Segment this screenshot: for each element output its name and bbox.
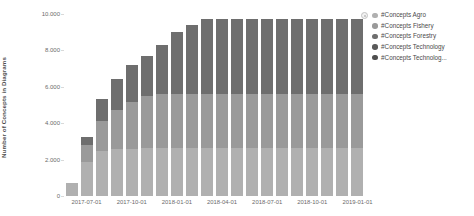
bar[interactable]: [246, 19, 258, 196]
x-axis-tick-labels: 2017-07-012017-10-012018-01-012018-04-01…: [64, 197, 365, 215]
bar-segment: [81, 145, 93, 162]
bar-segment: [231, 148, 243, 196]
bar-segment: [351, 148, 363, 196]
bar-segment: [306, 19, 318, 93]
bar[interactable]: [111, 79, 123, 196]
legend-item-label: #Concepts Technology: [381, 44, 445, 50]
y-axis-tick-label: 2.000: [24, 157, 60, 163]
y-axis-tick-label: 4.000: [24, 120, 60, 126]
x-axis-tick-label: 2018-07-01: [252, 199, 282, 205]
bar-segment: [186, 94, 198, 149]
bar-segment: [291, 94, 303, 149]
bar-segment: [111, 79, 123, 110]
bar-segment: [96, 151, 108, 196]
legend-marker-icon: [372, 44, 378, 50]
bar-segment: [336, 94, 348, 149]
y-axis-tick-label: 6.000: [24, 84, 60, 90]
bar-segment: [261, 19, 273, 93]
bar-segment: [246, 94, 258, 149]
legend-marker-icon: [372, 55, 378, 61]
bar-segment: [261, 94, 273, 149]
bar-segment: [96, 99, 108, 122]
bar-segment: [291, 19, 303, 93]
bar[interactable]: [261, 19, 273, 196]
bar[interactable]: [126, 65, 138, 196]
y-axis-tick-labels: 02.0004.0006.0008.00010.000: [18, 0, 60, 216]
y-axis-title: Number of Concepts in Diagrams: [0, 0, 20, 158]
bar-segment: [126, 65, 138, 102]
bar[interactable]: [336, 19, 348, 196]
bar-segment: [321, 148, 333, 196]
bar-segment: [126, 149, 138, 196]
bar-segment: [306, 148, 318, 196]
y-axis-tick-label: 8.000: [24, 47, 60, 53]
legend-marker-icon: [372, 23, 378, 29]
bar-segment: [171, 94, 183, 149]
bar-segment: [231, 94, 243, 149]
bar-segment: [156, 148, 168, 196]
bar[interactable]: [96, 99, 108, 196]
bar-segment: [156, 45, 168, 94]
y-axis-tick-label: 0: [24, 193, 60, 199]
x-axis-tick-label: 2018-04-01: [207, 199, 237, 205]
x-axis-tick-label: 2019-01-01: [342, 199, 372, 205]
legend-item[interactable]: #Concepts Fishery: [361, 21, 474, 32]
y-axis-tick-label: 10.000: [24, 11, 60, 17]
legend-marker-icon: [372, 13, 378, 19]
bar-segment: [201, 148, 213, 196]
bar-segment: [96, 121, 108, 151]
bar-segment: [336, 148, 348, 196]
bar-segment: [276, 148, 288, 196]
bar[interactable]: [171, 32, 183, 196]
bar-segment: [216, 19, 228, 93]
bar-segment: [246, 148, 258, 196]
bar-segment: [261, 148, 273, 196]
bar-segment: [216, 148, 228, 196]
bar-segment: [306, 94, 318, 149]
bar-segment: [291, 148, 303, 196]
legend-item[interactable]: #Concepts Forestry: [361, 31, 474, 42]
x-axis-tick-label: 2017-10-01: [117, 199, 147, 205]
bar[interactable]: [81, 137, 93, 196]
bar-segment: [141, 148, 153, 196]
bar-segment: [246, 19, 258, 93]
legend-item[interactable]: #Concepts Technology: [361, 42, 474, 53]
bar-segment: [186, 148, 198, 196]
bar[interactable]: [306, 19, 318, 196]
bar-segment: [321, 19, 333, 93]
bar[interactable]: [186, 25, 198, 196]
legend-item[interactable]: #Concepts Technolog...: [361, 52, 474, 63]
bar-segment: [336, 19, 348, 93]
bar[interactable]: [216, 19, 228, 196]
bars-layer: [64, 14, 365, 196]
bar[interactable]: [231, 19, 243, 196]
x-axis-tick-label: 2018-10-01: [297, 199, 327, 205]
bar[interactable]: [276, 19, 288, 196]
bar-segment: [171, 32, 183, 94]
bar-segment: [141, 96, 153, 149]
legend-item-label: #Concepts Forestry: [381, 33, 436, 39]
bar-segment: [276, 94, 288, 149]
bar[interactable]: [66, 183, 78, 196]
legend-item-label: #Concepts Fishery: [381, 23, 434, 29]
bar-segment: [216, 94, 228, 149]
legend-item-label: #Concepts Agro: [381, 12, 426, 18]
bar-segment: [186, 25, 198, 94]
bar[interactable]: [156, 45, 168, 196]
x-axis-tick-label: 2017-07-01: [71, 199, 101, 205]
bar-segment: [201, 94, 213, 149]
bar-segment: [201, 19, 213, 93]
bar-segment: [351, 94, 363, 149]
bar[interactable]: [141, 56, 153, 196]
legend-item[interactable]: #Concepts Agro: [361, 10, 474, 21]
bar[interactable]: [291, 19, 303, 196]
bar[interactable]: [321, 19, 333, 196]
bar[interactable]: [201, 19, 213, 196]
bar-segment: [321, 94, 333, 149]
bar-segment: [231, 19, 243, 93]
bar-segment: [81, 162, 93, 196]
legend-marker-icon: [372, 34, 378, 40]
bar-segment: [66, 183, 78, 196]
bar-segment: [81, 137, 93, 145]
bar-segment: [156, 94, 168, 148]
